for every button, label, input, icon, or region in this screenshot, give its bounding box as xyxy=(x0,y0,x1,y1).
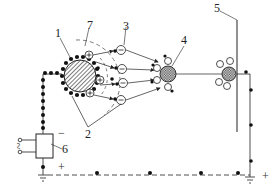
ground-return-line xyxy=(48,171,250,175)
negative-wire xyxy=(41,71,62,134)
field-lines xyxy=(72,96,121,127)
label-2: 2 xyxy=(85,128,91,140)
label-4: 4 xyxy=(181,34,187,46)
label-7: 7 xyxy=(87,19,93,31)
minus-sign: − xyxy=(58,127,65,139)
deposited-particle xyxy=(216,58,237,90)
diagram-canvas xyxy=(0,0,278,195)
ac-symbol: ~ xyxy=(12,143,24,150)
label-3: 3 xyxy=(123,20,129,32)
label-1: 1 xyxy=(55,27,61,39)
power-supply xyxy=(18,134,62,175)
ground-right xyxy=(245,177,255,183)
positive-wire xyxy=(237,70,253,177)
label-6: 6 xyxy=(62,143,68,155)
plus-sign-ground: + xyxy=(262,170,269,182)
plus-sign-source: + xyxy=(58,161,65,173)
ground-left xyxy=(38,175,48,181)
negative-ions xyxy=(113,46,127,105)
charged-particle xyxy=(150,54,228,92)
drum-electrode xyxy=(60,55,100,97)
label-5: 5 xyxy=(214,2,220,14)
